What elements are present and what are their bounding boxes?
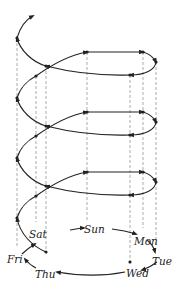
label-tue: Tue — [152, 256, 172, 267]
label-sun: Sun — [84, 224, 105, 235]
loop-3 — [17, 158, 156, 218]
label-sat: Sat — [29, 229, 47, 240]
label-mon: Mon — [134, 236, 158, 247]
label-wed: Wed — [126, 268, 149, 279]
loop-1 — [17, 38, 156, 98]
label-fri: Fri — [7, 254, 23, 265]
weekday-spiral-diagram — [0, 0, 179, 291]
loop-2 — [17, 98, 156, 158]
label-thu: Thu — [35, 269, 56, 280]
